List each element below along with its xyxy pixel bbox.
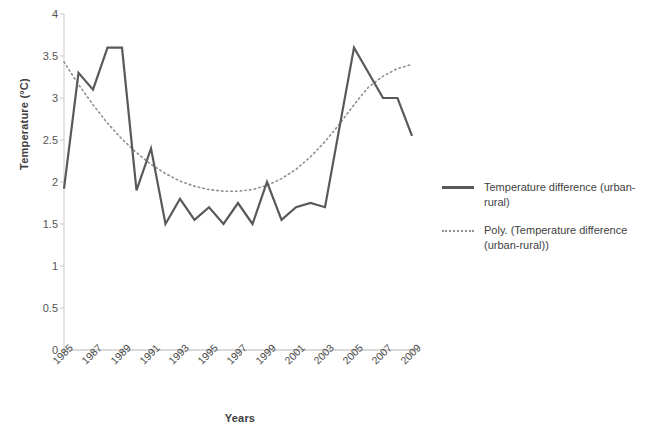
chart-legend: Temperature difference (urban-rural) Pol… <box>440 180 645 266</box>
x-axis-tick-label: 2007 <box>369 341 394 366</box>
x-axis-tick-label: 2009 <box>398 341 423 366</box>
x-axis-tick-label: 1995 <box>195 341 220 366</box>
x-axis-tick-label: 1997 <box>224 341 249 366</box>
x-axis-tick-label: 2001 <box>282 341 307 366</box>
legend-item-poly-trendline: Poly. (Temperature difference (urban-rur… <box>440 223 645 252</box>
x-axis-tick-label: 1987 <box>79 341 104 366</box>
legend-dotted-line-icon <box>440 224 476 238</box>
x-axis-tick-label: 1985 <box>50 341 75 366</box>
legend-solid-line-icon <box>440 181 476 195</box>
x-axis-tick-label: 2003 <box>311 341 336 366</box>
legend-item-temperature-difference: Temperature difference (urban-rural) <box>440 180 645 209</box>
x-axis-tick-label: 1991 <box>137 341 162 366</box>
x-axis-tick-label: 2005 <box>340 341 365 366</box>
x-axis-tick-label: 1993 <box>166 341 191 366</box>
legend-item-label: Poly. (Temperature difference (urban-rur… <box>484 223 645 252</box>
legend-item-label: Temperature difference (urban-rural) <box>484 180 645 209</box>
x-axis-tick-label: 1999 <box>253 341 278 366</box>
chart-container: Temperature (°C) Years 43.532.521.510.50… <box>0 0 647 432</box>
x-axis-tick-label: 1989 <box>108 341 133 366</box>
